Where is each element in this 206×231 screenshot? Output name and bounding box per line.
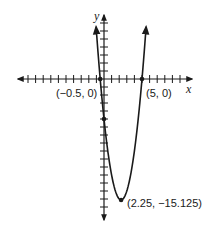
point-marker: [140, 77, 145, 82]
x-axis-label: x: [185, 82, 192, 96]
point-marker: [98, 77, 103, 82]
root-right-label: (5, 0): [146, 87, 172, 99]
point-marker: [102, 117, 107, 122]
point-marker: [119, 198, 124, 203]
parabola-graph: y x (−0.5, 0) (5, 0) (2.25, −15.125): [0, 0, 206, 231]
x-axis: [18, 75, 192, 83]
vertex-label: (2.25, −15.125): [127, 197, 202, 209]
y-axis-label: y: [93, 9, 100, 23]
root-left-label: (−0.5, 0): [56, 87, 97, 99]
